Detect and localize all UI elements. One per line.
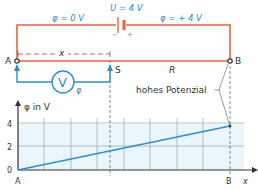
y-axis-label: φ in V — [24, 102, 51, 112]
battery-plus: + — [127, 31, 133, 39]
y-axis-arrow-icon — [15, 100, 21, 106]
probe-a-arrow-icon — [14, 64, 20, 71]
point-a-label: A — [5, 56, 12, 66]
resistor-label: R — [169, 65, 175, 75]
x-axis-label: x — [242, 177, 248, 186]
phi-right-label: φ = + 4 V — [160, 13, 203, 23]
voltmeter-reading: φ — [76, 85, 82, 95]
x-tick-a: A — [15, 177, 21, 186]
point-b-label: B — [235, 56, 241, 66]
circuit-wires — [17, 25, 230, 61]
slider-label: S — [115, 65, 121, 75]
x-axis-arrow-icon — [252, 167, 258, 173]
annotation-leader-top — [214, 64, 228, 90]
y-tick-4: 4 — [7, 120, 12, 129]
phi-left-label: φ = 0 V — [52, 13, 85, 23]
x-tick-b: B — [226, 177, 232, 186]
terminal-b — [228, 59, 232, 63]
battery-minus: − — [112, 31, 118, 39]
annotation-label: hohes Potenzial — [136, 85, 207, 95]
annotation-leader-bottom — [219, 90, 230, 126]
y-tick-2: 2 — [7, 143, 12, 152]
battery-voltage-label: U = 4 V — [110, 3, 144, 13]
voltmeter-symbol: V — [58, 75, 67, 90]
probe-s-arrow-icon — [107, 64, 113, 71]
distance-label: x — [58, 48, 65, 58]
terminal-a — [15, 59, 19, 63]
potential-divider-diagram: 0 2 4 φ in V A B x − + U = 4 V φ = 0 V φ… — [0, 0, 258, 190]
y-tick-0: 0 — [7, 166, 12, 175]
